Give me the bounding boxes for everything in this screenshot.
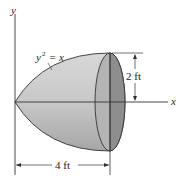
paraboloid-diagram: 2 ft 4 ft y x y 2 = x — [0, 0, 185, 189]
arrow-right-icon — [104, 163, 109, 167]
svg-text:y: y — [35, 51, 41, 63]
arrow-left-icon — [16, 163, 21, 167]
curve-label: y 2 = x — [35, 50, 64, 63]
height-label: 2 ft — [126, 70, 141, 82]
svg-text:= x: = x — [46, 51, 64, 63]
arrow-up-icon — [133, 54, 137, 59]
arrow-down-icon — [133, 96, 137, 101]
length-label: 4 ft — [55, 159, 70, 171]
x-axis-label: x — [170, 95, 176, 107]
y-axis-label: y — [10, 4, 16, 16]
